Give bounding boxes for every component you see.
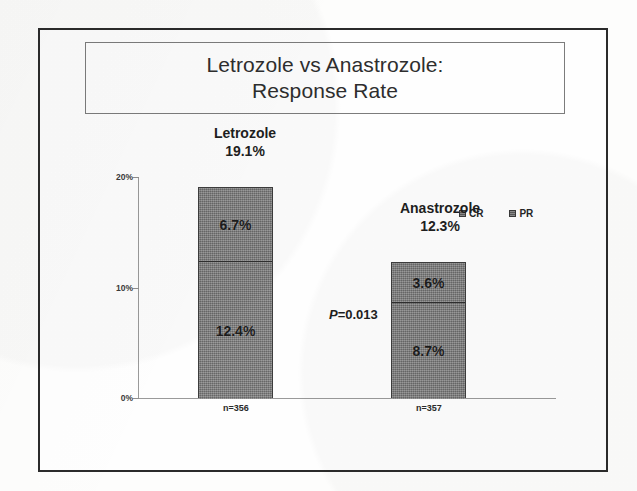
bar-segment-label-anastrozole-cr: 8.7% (413, 343, 445, 359)
bar-segment-label-letrozole-pr: 6.7% (220, 217, 252, 233)
p-value-number: =0.013 (338, 307, 378, 322)
bar-segment-letrozole-pr: 6.7% (199, 188, 272, 262)
y-tick-mark-20 (133, 177, 139, 178)
bar-heading-anastrozole: Anastrozole 12.3% (370, 200, 510, 236)
bar-anastrozole: 3.6% 8.7% (391, 262, 466, 398)
bar-segment-anastrozole-pr: 3.6% (392, 263, 465, 303)
sample-size-anastrozole: n=357 (388, 403, 470, 413)
sample-size-letrozole: n=356 (195, 403, 277, 413)
bar-heading-letrozole: Letrozole 19.1% (180, 125, 310, 161)
bar-letrozole: 6.7% 12.4% (198, 187, 273, 398)
legend-label-pr: PR (519, 208, 533, 219)
y-tick-mark-10 (133, 288, 139, 289)
scanned-slide-page: Letrozole vs Anastrozole: Response Rate … (0, 0, 637, 491)
bar-segment-anastrozole-cr: 8.7% (392, 303, 465, 399)
p-value-symbol: P (329, 307, 338, 322)
y-tick-mark-0 (133, 398, 139, 399)
legend-item-pr: PR (509, 208, 533, 219)
bar-segment-label-letrozole-cr: 12.4% (216, 323, 256, 339)
legend-swatch-pr-icon (509, 210, 516, 217)
y-tick-label-0: 0% (87, 393, 133, 403)
bar-segment-letrozole-cr: 12.4% (199, 262, 272, 399)
y-tick-label-10: 10% (87, 283, 133, 293)
slide-frame: Letrozole vs Anastrozole: Response Rate … (38, 28, 608, 472)
y-tick-label-20: 20% (87, 172, 133, 182)
chart-plot-area: 20% 10% 0% CR PR (40, 30, 606, 470)
bar-segment-label-anastrozole-pr: 3.6% (413, 275, 445, 291)
p-value-annotation: P=0.013 (329, 307, 378, 322)
